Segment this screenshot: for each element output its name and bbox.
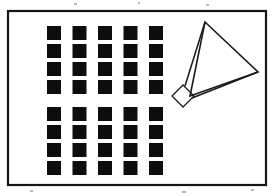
grid-square bbox=[98, 143, 112, 157]
grid-square bbox=[149, 80, 163, 94]
grid-square bbox=[98, 80, 112, 94]
grid-square bbox=[149, 125, 163, 139]
grid-square bbox=[47, 143, 61, 157]
grid-square bbox=[98, 26, 112, 40]
diagram-canvas bbox=[0, 0, 275, 196]
grid-square bbox=[73, 107, 87, 121]
grid-square bbox=[73, 80, 87, 94]
grid-square bbox=[73, 44, 87, 58]
grid-square bbox=[149, 143, 163, 157]
grid-square bbox=[73, 26, 87, 40]
grid-square bbox=[47, 26, 61, 40]
grid-square bbox=[73, 62, 87, 76]
grid-square bbox=[47, 107, 61, 121]
grid-square bbox=[73, 143, 87, 157]
grid-square bbox=[73, 125, 87, 139]
grid-square bbox=[124, 143, 138, 157]
grid-square bbox=[47, 80, 61, 94]
grid-square bbox=[149, 26, 163, 40]
grid-square bbox=[149, 161, 163, 175]
grid-square bbox=[124, 26, 138, 40]
grid-square bbox=[98, 44, 112, 58]
grid-square bbox=[124, 44, 138, 58]
grid-square bbox=[98, 125, 112, 139]
grid-square bbox=[47, 44, 61, 58]
grid-square bbox=[149, 62, 163, 76]
grid-square bbox=[47, 62, 61, 76]
grid-square bbox=[98, 161, 112, 175]
grid-square bbox=[98, 107, 112, 121]
grid-square bbox=[124, 62, 138, 76]
figure-container bbox=[0, 0, 275, 196]
grid-square bbox=[149, 107, 163, 121]
grid-square bbox=[73, 161, 87, 175]
grid-square bbox=[47, 161, 61, 175]
grid-square bbox=[124, 107, 138, 121]
grid-square bbox=[149, 44, 163, 58]
grid-square bbox=[124, 161, 138, 175]
grid-square bbox=[124, 125, 138, 139]
grid-square bbox=[124, 80, 138, 94]
grid-square bbox=[47, 125, 61, 139]
grid-square bbox=[98, 62, 112, 76]
